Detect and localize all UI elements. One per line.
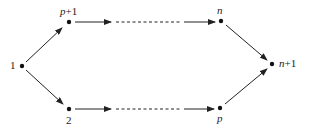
node-p-plus-1 [67, 20, 71, 24]
label-suffix: +1 [66, 5, 78, 17]
edge-1-to-p-plus-1 [26, 28, 62, 62]
label-var: p [217, 112, 223, 124]
label-node-p-plus-1: p+1 [60, 6, 77, 17]
label-node-1: 1 [10, 60, 16, 71]
label-node-n: n [217, 5, 223, 16]
graph-canvas [0, 0, 309, 137]
node-p [218, 106, 222, 110]
edge-p-to-n-plus-1 [225, 69, 267, 104]
node-n-plus-1 [270, 62, 274, 66]
edge-n-to-n-plus-1 [226, 25, 267, 60]
label-var: n [217, 4, 223, 16]
label-text: 1 [10, 59, 16, 71]
label-text: 2 [66, 114, 72, 126]
label-node-2: 2 [66, 115, 72, 126]
node-2 [67, 107, 71, 111]
label-node-n-plus-1: n+1 [279, 58, 296, 69]
node-1 [20, 64, 24, 68]
label-suffix: +1 [285, 57, 297, 69]
label-node-p: p [217, 113, 223, 124]
node-n [219, 19, 223, 23]
edge-1-to-2 [26, 70, 63, 104]
